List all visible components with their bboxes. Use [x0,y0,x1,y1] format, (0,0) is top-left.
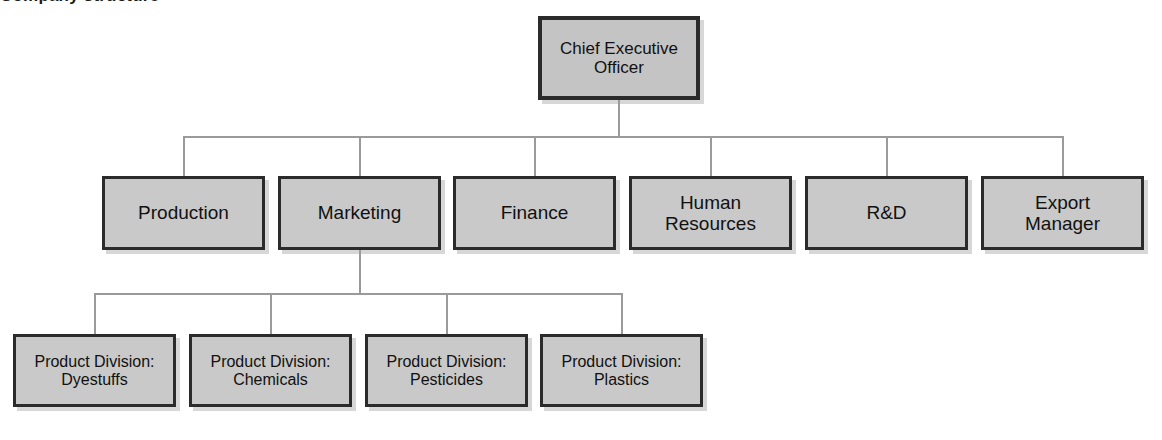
connector-divisions-bus [94,293,622,295]
node-production[interactable]: Production [102,176,265,250]
node-label-line2: Plastics [547,371,696,389]
node-label-line1: Finance [460,202,609,223]
connector-departments-bus [183,136,1063,138]
node-product-division-pesticides[interactable]: Product Division: Pesticides [365,334,528,407]
node-label-line1: R&D [812,202,961,223]
connector-drop-division-dyestuffs [94,293,96,334]
connector-drop-division-plastics [621,293,623,334]
node-label: Product Division: Chemicals [196,353,345,389]
node-label: Export Manager [988,192,1137,235]
node-human-resources[interactable]: Human Resources [629,176,792,250]
connector-drop-rnd [886,136,888,176]
node-product-division-plastics[interactable]: Product Division: Plastics [540,334,703,407]
node-label: R&D [812,202,961,223]
node-rnd[interactable]: R&D [805,176,968,250]
node-label-line2: Officer [546,58,692,77]
node-product-division-dyestuffs[interactable]: Product Division: Dyestuffs [13,334,176,407]
node-export-manager[interactable]: Export Manager [981,176,1144,250]
node-label: Marketing [285,202,434,223]
node-label-line1: Marketing [285,202,434,223]
node-label-line1: Product Division: [196,353,345,371]
node-label-line1: Product Division: [20,353,169,371]
node-label-line1: Production [109,202,258,223]
connector-drop-production [183,136,185,176]
connector-ceo-stem [618,100,620,137]
node-label: Product Division: Plastics [547,353,696,389]
org-chart: Company structure Chief Executive Office… [0,0,1162,440]
connector-drop-finance [534,136,536,176]
node-label-line2: Resources [636,213,785,234]
node-label: Chief Executive Officer [546,39,692,77]
node-label-line2: Chemicals [196,371,345,389]
connector-marketing-stem [359,250,361,294]
chart-title: Company structure [0,0,500,4]
node-label: Production [109,202,258,223]
node-label: Human Resources [636,192,785,235]
node-finance[interactable]: Finance [453,176,616,250]
node-label: Product Division: Pesticides [372,353,521,389]
connector-drop-division-pesticides [446,293,448,334]
connector-drop-export-manager [1062,136,1064,176]
node-label-line1: Product Division: [547,353,696,371]
node-label: Finance [460,202,609,223]
node-product-division-chemicals[interactable]: Product Division: Chemicals [189,334,352,407]
node-marketing[interactable]: Marketing [278,176,441,250]
node-label-line1: Human [636,192,785,213]
connector-drop-marketing [359,136,361,176]
connector-drop-human-resources [710,136,712,176]
node-label-line1: Chief Executive [546,39,692,58]
connector-drop-division-chemicals [270,293,272,334]
node-label-line1: Export [988,192,1137,213]
node-chief-executive-officer[interactable]: Chief Executive Officer [538,16,700,100]
node-label-line1: Product Division: [372,353,521,371]
node-label-line2: Dyestuffs [20,371,169,389]
node-label-line2: Pesticides [372,371,521,389]
node-label: Product Division: Dyestuffs [20,353,169,389]
node-label-line2: Manager [988,213,1137,234]
